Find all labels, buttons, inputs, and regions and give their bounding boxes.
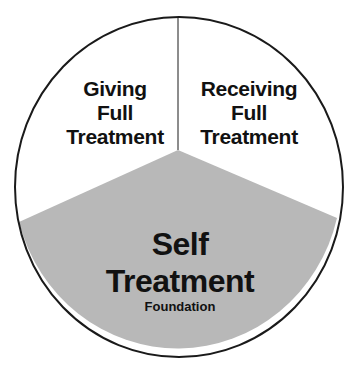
label-line: Receiving [186,78,312,102]
label-line: Treatment [100,265,260,302]
label-line: Full [186,102,312,126]
label-line: Self [100,228,260,265]
receiving-full-treatment-label: Receiving Full Treatment [186,78,312,150]
self-treatment-label: Self Treatment [100,228,260,302]
label-line: Full [55,102,175,126]
label-line: Treatment [55,126,175,150]
giving-full-treatment-label: Giving Full Treatment [55,78,175,150]
label-line: Giving [55,78,175,102]
label-line: Treatment [186,126,312,150]
foundation-sublabel: Foundation [100,300,260,313]
